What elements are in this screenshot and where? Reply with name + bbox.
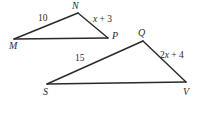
segment-qv [143, 41, 186, 82]
segment-sq [47, 41, 143, 84]
segment-mp [14, 38, 108, 39]
vertex-label-s: S [43, 87, 48, 97]
vertex-label-q: Q [138, 28, 145, 38]
geometry-figure: M N P Q S V 10 x + 3 15 2x + 4 [0, 0, 202, 118]
vertex-label-n: N [72, 1, 79, 11]
side-measure-sq: 15 [75, 54, 85, 64]
vertex-label-v: V [183, 87, 189, 97]
side-measure-mn: 10 [38, 14, 48, 24]
vertex-label-p: P [112, 31, 118, 41]
segment-sv [47, 82, 186, 84]
side-measure-qv-rest: + 4 [169, 50, 184, 60]
side-measure-np: x + 3 [93, 15, 112, 25]
vertex-label-m: M [9, 41, 18, 51]
triangle-sqv-group [47, 41, 186, 84]
side-measure-np-rest: + 3 [97, 14, 112, 24]
side-measure-qv: 2x + 4 [160, 51, 184, 61]
